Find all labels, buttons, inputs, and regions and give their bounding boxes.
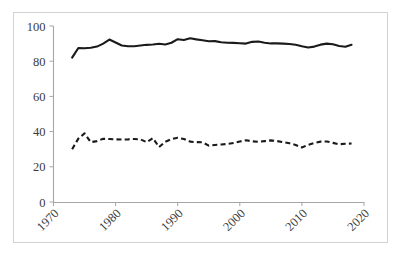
line-chart: 020406080100 197019801990200020102020 [0, 0, 402, 261]
y-tick-label-0: 0 [39, 196, 45, 210]
y-tick-label-20: 20 [33, 160, 46, 174]
y-tick-label-80: 80 [33, 55, 46, 69]
x-tick-label-1980: 1980 [96, 206, 124, 234]
y-tick-label-100: 100 [27, 20, 46, 34]
y-tick-label-group: 020406080100 [27, 20, 46, 210]
x-tick-label-1990: 1990 [158, 206, 186, 234]
x-tick-label-group: 197019801990200020102020 [34, 206, 372, 234]
x-tick-label-1970: 1970 [34, 206, 62, 234]
chart-figure: 020406080100 197019801990200020102020 [0, 0, 402, 261]
x-tick-label-2000: 2000 [220, 206, 248, 234]
x-axis: 197019801990200020102020 [34, 202, 372, 234]
series-dashed-line [72, 133, 351, 149]
y-axis: 020406080100 [27, 20, 54, 210]
y-tick-label-60: 60 [33, 90, 46, 104]
y-tick-label-40: 40 [33, 125, 46, 139]
x-tick-label-2020: 2020 [345, 206, 373, 234]
x-tick-label-2010: 2010 [282, 206, 310, 234]
series-solid-line [72, 38, 351, 57]
data-series-group [72, 38, 351, 149]
y-tick-group [50, 26, 54, 202]
